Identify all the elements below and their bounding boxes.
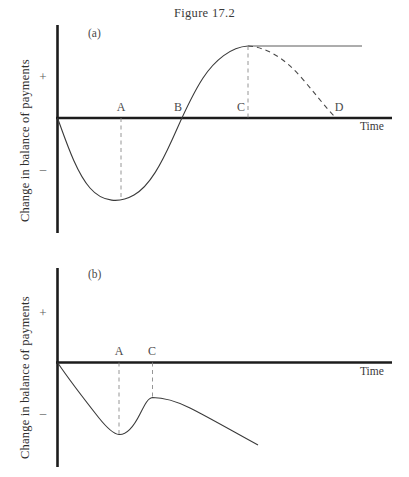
- curve-a-jcurve: [58, 46, 249, 200]
- figure-container: Figure 17.2 (a) Change in balance of pay…: [0, 0, 409, 477]
- curve-a-reversal-dashed: [248, 46, 336, 118]
- plot-canvas: [0, 0, 409, 477]
- curve-b-adjustment: [58, 363, 259, 446]
